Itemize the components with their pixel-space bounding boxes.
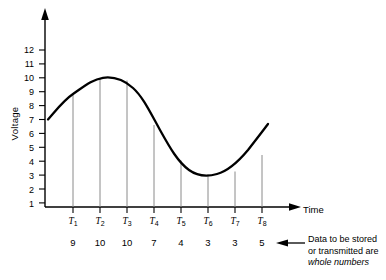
x-axis-title: Time	[303, 204, 324, 215]
y-tick-label: 2	[18, 185, 34, 195]
x-tick-marks	[73, 207, 262, 213]
x-tick-label-t4: T4	[141, 216, 167, 229]
x-tick-label-t2: T2	[87, 216, 113, 229]
x-tick-subscript: 3	[128, 220, 132, 227]
y-tick-label: 5	[18, 143, 34, 153]
y-tick-label: 10	[18, 73, 34, 83]
y-tick-label: 1	[18, 199, 34, 209]
y-tick-marks	[39, 50, 45, 203]
y-axis-title: Voltage	[9, 96, 20, 152]
right-arrow-icon	[289, 203, 301, 210]
sample-value: 10	[87, 238, 113, 248]
x-tick-subscript: 4	[155, 220, 159, 227]
voltage-waveform-curve	[48, 77, 268, 175]
y-tick-label: 4	[18, 157, 34, 167]
x-tick-label-t8: T8	[249, 216, 275, 229]
x-tick-subscript: 8	[263, 220, 267, 227]
y-tick-label: 3	[18, 171, 34, 181]
y-tick-label: 6	[18, 129, 34, 139]
sample-value: 7	[141, 238, 167, 248]
sample-value: 9	[60, 238, 86, 248]
annotation-line-3: whole numbers	[308, 257, 379, 269]
sample-value: 4	[168, 238, 194, 248]
x-tick-label-t5: T5	[168, 216, 194, 229]
x-tick-label-t7: T7	[222, 216, 248, 229]
x-tick-subscript: 2	[101, 220, 105, 227]
sample-value: 10	[114, 238, 140, 248]
sample-value: 3	[195, 238, 221, 248]
y-tick-label: 11	[18, 59, 34, 69]
annotation-line-2: or transmitted are	[308, 246, 379, 258]
y-tick-label: 8	[18, 101, 34, 111]
y-tick-label: 9	[18, 87, 34, 97]
annotation-leader-arrow	[276, 239, 305, 246]
y-axis	[41, 8, 49, 207]
annotation-note: Data to be stored or transmitted are who…	[308, 234, 379, 269]
x-axis	[45, 203, 301, 210]
annotation-line-1: Data to be stored	[308, 234, 379, 246]
x-tick-subscript: 6	[209, 220, 213, 227]
voltage-time-figure: 12 11 10 9 8 7 6 5 4 3 2 1 Voltage T1 T2…	[0, 0, 386, 280]
x-tick-label-t3: T3	[114, 216, 140, 229]
x-tick-label-t6: T6	[195, 216, 221, 229]
y-tick-label: 7	[18, 115, 34, 125]
x-tick-label-t1: T1	[60, 216, 86, 229]
sample-value: 3	[222, 238, 248, 248]
x-tick-subscript: 1	[74, 220, 78, 227]
x-tick-subscript: 5	[182, 220, 186, 227]
up-arrow-icon	[41, 8, 49, 20]
sample-value: 5	[249, 238, 275, 248]
y-tick-label: 12	[18, 45, 34, 55]
left-arrow-icon	[276, 239, 288, 246]
x-tick-subscript: 7	[236, 220, 240, 227]
